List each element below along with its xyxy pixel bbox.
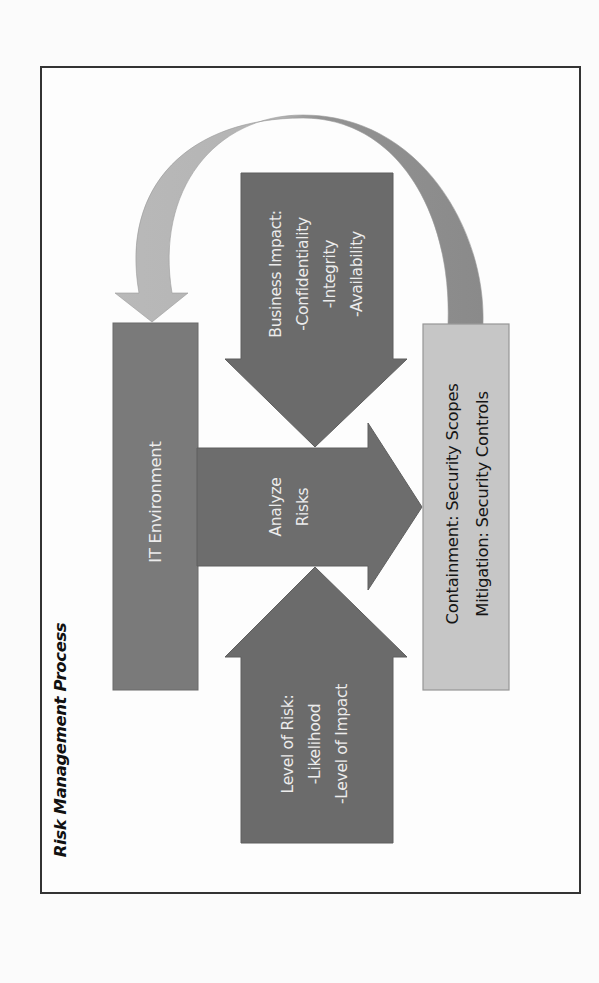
analyze-risks-label: Analyze Risks bbox=[263, 478, 317, 537]
level-of-risk-line-2: -Likelihood bbox=[302, 684, 329, 804]
level-of-risk-label: Level of Risk: -Likelihood -Level of Imp… bbox=[275, 684, 356, 804]
business-impact-line-4: -Availability bbox=[344, 210, 371, 337]
business-impact-line-1: Business Impact: bbox=[263, 210, 290, 337]
business-impact-line-2: -Confidentiality bbox=[290, 210, 317, 337]
business-impact-line-3: -Integrity bbox=[317, 210, 344, 337]
it-environment-label: IT Environment bbox=[142, 441, 169, 562]
business-impact-label: Business Impact: -Confidentiality -Integ… bbox=[263, 210, 371, 337]
outcome-label: Containment: Security Scopes Mitigation:… bbox=[438, 383, 498, 624]
analyze-risks-line-1: Analyze bbox=[263, 478, 290, 537]
containment-line: Containment: Security Scopes bbox=[438, 383, 468, 624]
level-of-risk-line-1: Level of Risk: bbox=[275, 684, 302, 804]
mitigation-line: Mitigation: Security Controls bbox=[468, 383, 498, 624]
analyze-risks-line-2: Risks bbox=[290, 478, 317, 537]
level-of-risk-line-3: -Level of Impact bbox=[329, 684, 356, 804]
diagram-title: Risk Management Process bbox=[51, 623, 70, 858]
